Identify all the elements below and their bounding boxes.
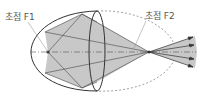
focus-f1-label: 초점 F1 <box>5 11 35 22</box>
f2-leader-line <box>134 21 146 48</box>
reflected-light-region <box>45 14 149 88</box>
focus-f2-point <box>148 51 151 54</box>
ellipsoid-reflector-diagram: 초점 F1 초점 F2 <box>0 0 206 95</box>
focus-f2-label: 초점 F2 <box>145 10 175 21</box>
